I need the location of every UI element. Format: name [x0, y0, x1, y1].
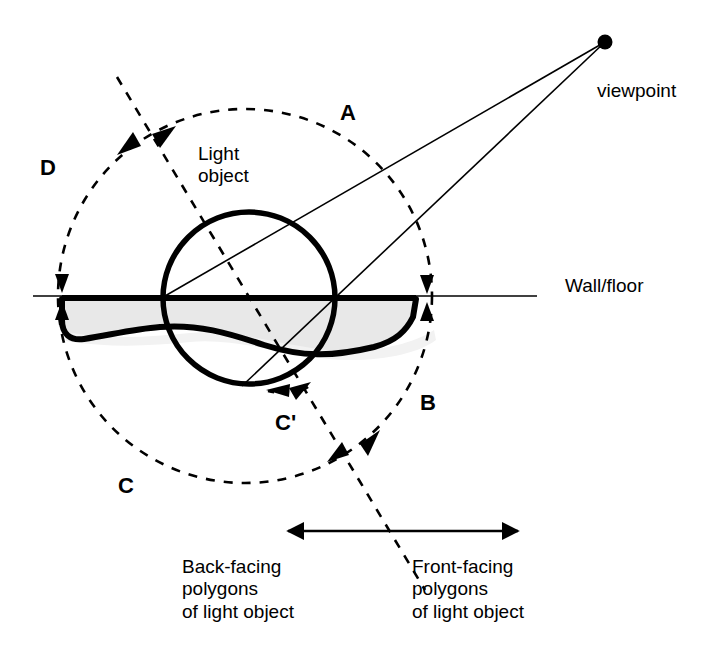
label-region-c: C — [118, 473, 134, 499]
label-light-object: Light object — [198, 143, 249, 188]
label-wall-floor: Wall/floor — [565, 275, 643, 297]
label-region-d: D — [40, 155, 56, 181]
label-viewpoint: viewpoint — [597, 80, 676, 102]
marker-b-c-boundary — [327, 430, 380, 462]
label-region-a: A — [340, 100, 356, 126]
sight-line-lower — [242, 42, 605, 386]
marker-d-a-boundary — [117, 126, 176, 155]
viewpoint-dot — [598, 35, 613, 50]
label-front-facing-polygons: Front-facing polygons of light object — [412, 556, 524, 623]
label-region-c-prime: C' — [275, 410, 296, 436]
label-region-b: B — [420, 390, 436, 416]
label-back-facing-polygons: Back-facing polygons of light object — [182, 556, 294, 623]
figure-canvas: A B C C' D viewpoint Wall/floor Light ob… — [0, 0, 718, 664]
